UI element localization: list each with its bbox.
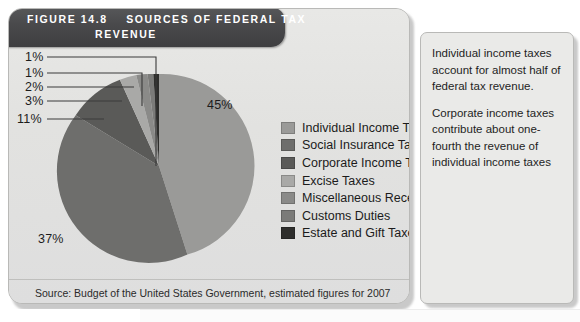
- legend-swatch-icon: [281, 175, 295, 187]
- legend-swatch-icon: [281, 227, 295, 239]
- page-bottom-band: [140, 309, 580, 322]
- figure-title-line-1: SOURCES OF FEDERAL TAX: [126, 12, 306, 27]
- figure-header-line-1: FIGURE 14.8 SOURCES OF FEDERAL TAX: [27, 12, 275, 27]
- legend-item-individual-income-taxes[interactable]: Individual Income Taxes: [281, 119, 410, 137]
- note-paragraph-2: Corporate income taxes contribute about …: [432, 105, 563, 171]
- pct-label-1-customs: 1%: [25, 66, 43, 80]
- legend-label: Miscellaneous Receipts: [302, 191, 410, 205]
- legend-swatch-icon: [281, 157, 295, 169]
- chart-legend: Individual Income Taxes Social Insurance…: [281, 119, 410, 242]
- legend-item-social-insurance-taxes[interactable]: Social Insurance Taxes: [281, 137, 410, 155]
- source-divider: [9, 279, 410, 280]
- legend-label: Corporate Income Taxes: [302, 156, 410, 170]
- legend-swatch-icon: [281, 192, 295, 204]
- legend-label: Estate and Gift Taxes: [302, 226, 410, 240]
- legend-item-corporate-income-taxes[interactable]: Corporate Income Taxes: [281, 154, 410, 172]
- note-paragraph-1: Individual income taxes account for almo…: [432, 45, 563, 95]
- legend-item-excise-taxes[interactable]: Excise Taxes: [281, 172, 410, 190]
- figure-card: FIGURE 14.8 SOURCES OF FEDERAL TAX REVEN…: [8, 8, 410, 304]
- pct-label-3-excise: 3%: [25, 94, 43, 108]
- legend-label: Excise Taxes: [302, 174, 375, 188]
- pct-label-2-misc: 2%: [25, 80, 43, 94]
- legend-swatch-icon: [281, 210, 295, 222]
- legend-swatch-icon: [281, 139, 295, 151]
- legend-label: Individual Income Taxes: [302, 121, 410, 135]
- source-note: Source: Budget of the United States Gove…: [35, 287, 390, 299]
- legend-swatch-icon: [281, 122, 295, 134]
- figure-header: FIGURE 14.8 SOURCES OF FEDERAL TAX REVEN…: [8, 8, 285, 47]
- legend-item-customs-duties[interactable]: Customs Duties: [281, 207, 410, 225]
- pct-label-45-individual: 45%: [207, 98, 233, 112]
- legend-label: Customs Duties: [302, 209, 390, 223]
- legend-item-miscellaneous-receipts[interactable]: Miscellaneous Receipts: [281, 189, 410, 207]
- figure-number-label: FIGURE 14.8: [27, 12, 108, 27]
- figure-title-line-2: REVENUE: [95, 27, 275, 42]
- note-panel: Individual income taxes account for almo…: [420, 32, 574, 304]
- legend-label: Social Insurance Taxes: [302, 138, 410, 152]
- legend-item-estate-and-gift-taxes[interactable]: Estate and Gift Taxes: [281, 225, 410, 243]
- pie-chart-area: 1% 1% 2% 3% 11% 45% 37% Individual Incom…: [9, 49, 410, 281]
- pct-label-1-estate-gift: 1%: [25, 50, 43, 64]
- pct-label-37-social-insurance: 37%: [38, 232, 64, 246]
- figure-header-line-2: REVENUE: [27, 27, 275, 42]
- pct-label-11-corporate: 11%: [17, 112, 42, 126]
